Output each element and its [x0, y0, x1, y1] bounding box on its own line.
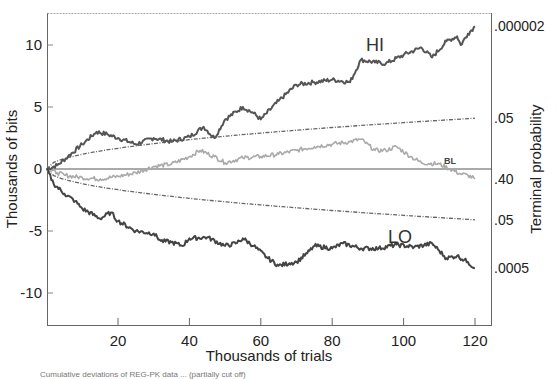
chart: 20406080100120 1050-5-10 HIBLLO .000002.… [0, 0, 558, 379]
x-tick-label: 20 [110, 332, 127, 349]
terminal-probability-label: .40 [494, 171, 514, 187]
x-tick-label: 100 [391, 332, 416, 349]
envelope-line [47, 118, 475, 169]
x-tick-label: 40 [181, 332, 198, 349]
series-lo-label: LO [388, 227, 412, 247]
x-axis-title: Thousands of trials [206, 347, 333, 364]
y-tick-label: 5 [34, 98, 42, 115]
y-tick-label: 0 [34, 160, 42, 177]
terminal-probability-label: .05 [494, 212, 514, 228]
series-lo-line [47, 169, 475, 268]
y-tick-label: -10 [20, 284, 42, 301]
series-bl-line [47, 139, 475, 181]
series-hi-line [47, 26, 475, 169]
y2-axis-title: Terminal probability [527, 104, 544, 234]
figure-caption: Cumulative deviations of REG-PK data ...… [40, 370, 246, 379]
plot-frame [48, 13, 493, 326]
data-series: HIBLLO [47, 26, 475, 268]
series-bl-label: BL [444, 156, 456, 166]
terminal-probability-label: .000002 [494, 18, 545, 34]
terminal-probability-label: .05 [494, 110, 514, 126]
y-tick-label: 10 [25, 36, 42, 53]
series-hi-label: HI [366, 35, 384, 55]
y-tick-label: -5 [29, 222, 42, 239]
x-ticks: 20406080100120 [110, 318, 488, 349]
y-axis-title: Thousands of bits [3, 110, 20, 228]
x-tick-label: 120 [462, 332, 487, 349]
terminal-probability-label: .0005 [494, 260, 529, 276]
